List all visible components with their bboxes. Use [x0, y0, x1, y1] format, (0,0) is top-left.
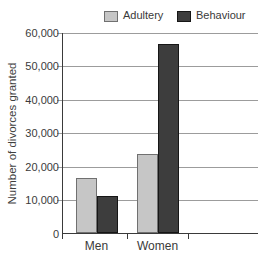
- y-tick-label: 10,000: [25, 194, 59, 206]
- y-tick-label: 30,000: [25, 127, 59, 139]
- chart-canvas: Adultery Behaviour Number of divorces gr…: [0, 0, 272, 263]
- y-tick-label: 50,000: [25, 60, 59, 72]
- x-category-label-women: Women: [137, 239, 178, 253]
- y-tick-label: 40,000: [25, 94, 59, 106]
- x-axis-tick: [62, 234, 63, 239]
- bar-men-behaviour: [97, 196, 118, 233]
- legend-label-adultery: Adultery: [123, 8, 163, 22]
- legend-label-behaviour: Behaviour: [196, 8, 246, 22]
- legend-swatch-behaviour: [177, 11, 191, 22]
- bar-men-adultery: [76, 178, 97, 233]
- y-tick-label: 60,000: [25, 27, 59, 39]
- x-axis-tick: [188, 234, 189, 239]
- y-tick-label: 0: [53, 228, 59, 240]
- bar-women-adultery: [137, 154, 158, 233]
- legend-swatch-adultery: [104, 11, 118, 22]
- y-axis-title: Number of divorces granted: [6, 33, 18, 234]
- x-axis-tick: [127, 234, 128, 239]
- bar-women-behaviour: [158, 44, 179, 233]
- y-tick-label: 20,000: [25, 161, 59, 173]
- plot-area: [62, 33, 258, 234]
- x-category-label-men: Men: [85, 239, 108, 253]
- gridline: [63, 33, 258, 34]
